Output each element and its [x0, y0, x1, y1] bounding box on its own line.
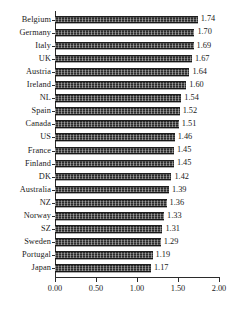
- bar: 1.69: [55, 42, 194, 50]
- x-axis-tick-label: 1.00: [130, 285, 145, 293]
- category-label: Sweden: [24, 238, 51, 246]
- x-axis-tick: [219, 278, 220, 282]
- bar-row: UK1.67: [55, 52, 219, 65]
- category-label: Spain: [32, 107, 51, 115]
- bar-value-label: 1.45: [177, 159, 192, 167]
- bar-value-label: 1.69: [197, 42, 212, 50]
- bar-value-label: 1.67: [195, 55, 210, 63]
- bar-value-label: 1.36: [170, 199, 185, 207]
- category-label: NL: [40, 94, 51, 102]
- bar-row: Belgium1.74: [55, 13, 219, 26]
- category-label: SZ: [41, 225, 51, 233]
- bar: 1.67: [55, 55, 192, 63]
- bar: 1.33: [55, 212, 164, 220]
- bar: 1.46: [55, 134, 175, 142]
- category-label: NZ: [40, 199, 51, 207]
- bar-row: Norway1.33: [55, 210, 219, 223]
- bar-row: DK1.42: [55, 170, 219, 183]
- bar: 1.54: [55, 94, 181, 102]
- bar: 1.70: [55, 29, 194, 37]
- bar-row: Germany1.70: [55, 26, 219, 39]
- bar-row: SZ1.31: [55, 223, 219, 236]
- bar: 1.64: [55, 68, 189, 76]
- bar-row: Portugal1.19: [55, 249, 219, 262]
- x-axis-tick-label: 1.50: [171, 285, 186, 293]
- bar-value-label: 1.70: [197, 28, 212, 36]
- bar-row: Italy1.69: [55, 39, 219, 52]
- bar: 1.45: [55, 160, 174, 168]
- bar: 1.51: [55, 121, 179, 129]
- bar: 1.36: [55, 199, 167, 207]
- bar-value-label: 1.45: [177, 146, 192, 154]
- bar-value-label: 1.33: [167, 212, 182, 220]
- bar-row: France1.45: [55, 144, 219, 157]
- bar-value-label: 1.52: [183, 107, 198, 115]
- bar: 1.19: [55, 252, 153, 260]
- bar: 1.29: [55, 238, 161, 246]
- category-label: DK: [39, 173, 51, 181]
- category-label: US: [40, 133, 51, 141]
- category-label: France: [28, 146, 51, 154]
- category-label: Austria: [26, 68, 51, 76]
- bar-value-label: 1.42: [174, 173, 189, 181]
- bar: 1.60: [55, 81, 186, 89]
- bar-value-label: 1.46: [178, 133, 193, 141]
- bar: 1.31: [55, 225, 162, 233]
- bar: 1.42: [55, 173, 171, 181]
- bar-value-label: 1.51: [182, 120, 197, 128]
- x-axis-tick-label: 0.50: [89, 285, 104, 293]
- category-label: Finland: [25, 159, 51, 167]
- x-axis-tick-label: 2.00: [212, 285, 227, 293]
- bar: 1.52: [55, 107, 180, 115]
- bar-row: Austria1.64: [55, 65, 219, 78]
- category-label: Australia: [20, 186, 51, 194]
- bar: 1.39: [55, 186, 169, 194]
- bar-row: Finland1.45: [55, 157, 219, 170]
- category-label: Italy: [35, 42, 51, 50]
- category-label: Belgium: [22, 15, 51, 23]
- x-axis-tick: [178, 278, 179, 282]
- bar-row: Canada1.51: [55, 118, 219, 131]
- bar-row: Australia1.39: [55, 183, 219, 196]
- bar-value-label: 1.17: [154, 264, 169, 272]
- category-label: Japan: [32, 264, 51, 272]
- bar-value-label: 1.60: [189, 81, 204, 89]
- bar-row: NL1.54: [55, 92, 219, 105]
- bar-chart: Belgium1.74Germany1.70Italy1.69UK1.67Aus…: [0, 0, 240, 311]
- category-label: Germany: [19, 28, 51, 36]
- bar: 1.17: [55, 265, 151, 273]
- bar-value-label: 1.54: [184, 94, 199, 102]
- category-label: Portugal: [22, 251, 51, 259]
- category-label: Norway: [24, 212, 51, 220]
- x-axis-tick: [55, 278, 56, 282]
- bar-value-label: 1.29: [164, 238, 179, 246]
- bar-value-label: 1.39: [172, 186, 187, 194]
- bar-value-label: 1.31: [165, 225, 180, 233]
- bar: 1.45: [55, 147, 174, 155]
- bar-row: Sweden1.29: [55, 236, 219, 249]
- bar-row: US1.46: [55, 131, 219, 144]
- x-axis-tick-label: 0.00: [48, 285, 63, 293]
- category-label: UK: [39, 55, 51, 63]
- category-label: Ireland: [27, 81, 51, 89]
- bar-row: Japan1.17: [55, 262, 219, 275]
- bar-row: NZ1.36: [55, 196, 219, 209]
- x-axis-tick: [137, 278, 138, 282]
- bar: 1.74: [55, 16, 198, 24]
- bar-value-label: 1.74: [201, 15, 216, 23]
- x-axis-tick: [96, 278, 97, 282]
- bar-value-label: 1.64: [192, 68, 207, 76]
- category-label: Canada: [26, 120, 51, 128]
- bar-row: Ireland1.60: [55, 79, 219, 92]
- bar-row: Spain1.52: [55, 105, 219, 118]
- bar-value-label: 1.19: [156, 251, 171, 259]
- plot-area: Belgium1.74Germany1.70Italy1.69UK1.67Aus…: [55, 13, 219, 275]
